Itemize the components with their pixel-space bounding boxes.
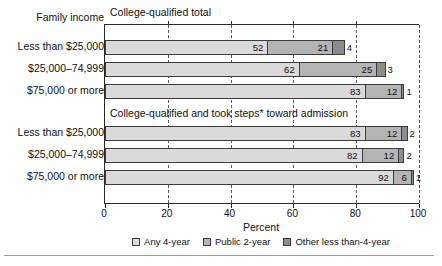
legend-swatch-icon-any-4-year (132, 238, 140, 246)
panel2-title: College-qualified and took steps* toward… (110, 107, 348, 119)
value-label: 12 (384, 151, 399, 161)
value-label: 12 (387, 87, 402, 97)
bar-p1-row2: 62 25 3 (105, 62, 386, 77)
legend-swatch-icon-public-2-year (203, 238, 211, 246)
xtick-label-0: 0 (101, 208, 107, 219)
legend-label: Other less than-4-year (295, 236, 390, 247)
row-label-p2-lessthan25k: Less than $25,000 (0, 127, 104, 138)
row-label-p1-75kormore: $75,000 or more (0, 85, 104, 96)
xtick-label-60: 60 (287, 208, 298, 219)
stacked-bar-chart: Family income Less than $25,000 $25,000–… (0, 0, 442, 266)
row-label-p1-lessthan25k: Less than $25,000 (0, 41, 104, 52)
bar-p2-row2: 82 12 2 (105, 148, 404, 163)
legend-item-public-2-year: Public 2-year (203, 236, 270, 247)
segment-other-less-than-4-year: 2 (401, 126, 407, 141)
tick-top-60 (293, 21, 294, 25)
segment-other-less-than-4-year: 3 (376, 62, 385, 77)
value-label: 3 (385, 65, 393, 75)
segment-any-4-year: 83 (105, 84, 366, 99)
bar-p2-row3: 92 6 1 (105, 170, 414, 185)
segment-any-4-year: 82 (105, 148, 363, 163)
segment-public-2-year: 12 (365, 84, 403, 99)
segment-public-2-year: 12 (362, 148, 400, 163)
tick-top-40 (231, 21, 232, 25)
row-label-p1-25kto74999: $25,000–74,999 (0, 63, 104, 74)
chart-legend: Any 4-year Public 2-year Other less than… (104, 236, 418, 247)
segment-any-4-year: 62 (105, 62, 300, 77)
segment-any-4-year: 52 (105, 40, 268, 55)
value-label: 21 (318, 43, 333, 53)
xtick-label-80: 80 (350, 208, 361, 219)
bar-p1-row1: 52 21 4 (105, 40, 345, 55)
xtick-label-20: 20 (161, 208, 172, 219)
value-label: 4 (344, 43, 352, 53)
value-label: 83 (350, 129, 365, 139)
segment-any-4-year: 92 (105, 170, 394, 185)
value-label: 12 (387, 129, 402, 139)
x-axis-title: Percent (104, 221, 418, 233)
segment-any-4-year: 83 (105, 126, 366, 141)
xtick-label-100: 100 (410, 208, 427, 219)
segment-other-less-than-4-year: 2 (398, 148, 404, 163)
footer-divider (4, 255, 434, 256)
xtick-label-40: 40 (224, 208, 235, 219)
segment-other-less-than-4-year: 1 (401, 84, 404, 99)
panel1-title: College-qualified total (110, 6, 211, 18)
legend-label: Public 2-year (215, 236, 270, 247)
value-label: 25 (362, 65, 377, 75)
value-label: 92 (378, 173, 393, 183)
legend-item-other-less-than-4-year: Other less than-4-year (283, 236, 390, 247)
tick-top-80 (356, 21, 357, 25)
value-label: 62 (284, 65, 299, 75)
value-label: 52 (253, 43, 268, 53)
value-label: 1 (403, 87, 411, 97)
segment-other-less-than-4-year: 4 (332, 40, 345, 55)
segment-public-2-year: 6 (393, 170, 412, 185)
row-label-p2-25kto74999: $25,000–74,999 (0, 149, 104, 160)
segment-public-2-year: 21 (267, 40, 333, 55)
tick-top-20 (168, 21, 169, 25)
plot-area: College-qualified total 52 21 4 62 25 3 … (104, 24, 419, 204)
bar-p1-row3: 83 12 1 (105, 84, 404, 99)
segment-other-less-than-4-year: 1 (411, 170, 414, 185)
value-label: 82 (347, 151, 362, 161)
bar-p2-row1: 83 12 2 (105, 126, 408, 141)
value-label: 6 (401, 173, 410, 183)
legend-label: Any 4-year (144, 236, 190, 247)
value-label: 83 (350, 87, 365, 97)
value-label: 1 (413, 173, 421, 183)
legend-item-any-4-year: Any 4-year (132, 236, 190, 247)
segment-public-2-year: 25 (299, 62, 378, 77)
legend-swatch-icon-other-less-than-4-year (283, 238, 291, 246)
row-label-p2-75kormore: $75,000 or more (0, 171, 104, 182)
value-label: 2 (407, 129, 415, 139)
segment-public-2-year: 12 (365, 126, 403, 141)
value-label: 2 (403, 151, 411, 161)
y-axis-header: Family income (0, 12, 104, 23)
